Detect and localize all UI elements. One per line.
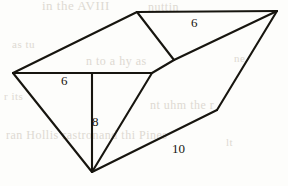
geometry-figure-page: in the AVIIInuttinas tun to a hy asner i… <box>0 0 288 186</box>
left-to-bottom-apex <box>13 73 92 172</box>
figure-line-drawing <box>0 0 288 186</box>
label-bottom-10: 10 <box>172 142 185 155</box>
label-left-6: 6 <box>61 74 68 87</box>
left-to-top-left-peak <box>13 12 137 73</box>
figure-edges <box>13 11 277 172</box>
label-height-8: 8 <box>92 115 99 128</box>
top-ridge <box>137 11 277 12</box>
mid-junction-to-front-right <box>152 60 174 73</box>
label-top-6: 6 <box>191 16 198 29</box>
top-left-peak-to-mid-junction <box>137 12 174 60</box>
